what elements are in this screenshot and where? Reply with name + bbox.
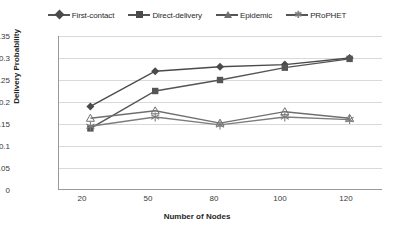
x-tick-label: 50	[128, 194, 168, 203]
x-tick-label: 20	[62, 194, 102, 203]
x-tick-label: 120	[326, 194, 366, 203]
x-axis-title: Number of Nodes	[0, 212, 394, 221]
x-tick-label: 80	[194, 194, 234, 203]
delivery-probability-chart: First-contact Direct-delivery Epidemic ✱…	[0, 0, 394, 236]
x-tick-label: 100	[260, 194, 300, 203]
